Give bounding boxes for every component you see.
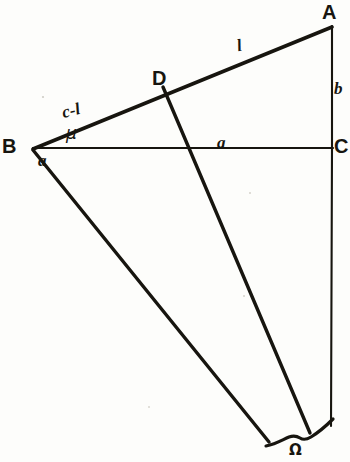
- vertex-label-C: C: [334, 136, 348, 156]
- line-D-ray: [163, 87, 310, 433]
- geometry-figure: A B C D l c-l μ a a b Ω: [0, 0, 350, 462]
- vertex-label-B: B: [2, 136, 16, 156]
- paper-speck: [249, 192, 251, 194]
- diagram-canvas: [0, 0, 350, 462]
- angle-label-alpha-at-B: a: [38, 152, 47, 169]
- omega-label: Ω: [289, 443, 302, 458]
- paper-speck: [243, 295, 245, 297]
- vertex-label-A: A: [322, 2, 336, 22]
- line-C-extension: [331, 148, 332, 426]
- paper-speck: [148, 406, 150, 408]
- paper-speck: [42, 96, 44, 98]
- segment-label-a-on-BC: a: [217, 134, 226, 151]
- segment-label-c-minus-l: c-l: [60, 100, 82, 121]
- angle-label-mu: μ: [66, 125, 77, 142]
- segment-label-b-on-AC: b: [334, 80, 343, 97]
- line-B-ray: [33, 150, 269, 442]
- vertex-label-D: D: [152, 68, 166, 88]
